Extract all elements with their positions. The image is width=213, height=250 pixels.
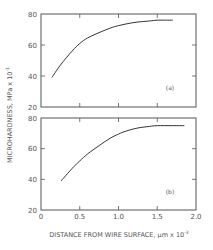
y-tick-label: 40 xyxy=(28,73,37,81)
panel-label: (b) xyxy=(166,188,175,195)
y-tick-label: 20 xyxy=(28,104,37,112)
x-axis-title: DISTANCE FROM WIRE SURFACE, μm x 10-3 xyxy=(49,230,189,239)
panel-a: 20406080(a) xyxy=(28,11,196,112)
y-tick-label: 60 xyxy=(28,145,37,153)
plot-frame xyxy=(41,118,196,210)
y-axis-title: MICROHARDNESS, MPa x 10-1 xyxy=(5,67,14,163)
x-tick-label: 1.5 xyxy=(152,213,163,221)
panel-b: 00.51.01.52.020406080(b) xyxy=(28,115,201,222)
x-tick-label: 2.0 xyxy=(190,213,201,221)
y-tick-label: 40 xyxy=(28,176,37,184)
hardness-curve xyxy=(52,20,173,77)
y-tick-label: 20 xyxy=(28,207,37,215)
y-tick-label: 80 xyxy=(28,115,37,123)
x-tick-label: 0.5 xyxy=(74,213,85,221)
microhardness-figure: 20406080(a) 00.51.01.52.020406080(b) MIC… xyxy=(0,0,213,250)
x-tick-label: 1.0 xyxy=(113,213,124,221)
y-tick-label: 80 xyxy=(28,11,37,19)
panel-label: (a) xyxy=(166,84,174,91)
x-tick-label: 0 xyxy=(39,213,43,221)
hardness-curve xyxy=(61,126,184,181)
y-tick-label: 60 xyxy=(28,42,37,50)
